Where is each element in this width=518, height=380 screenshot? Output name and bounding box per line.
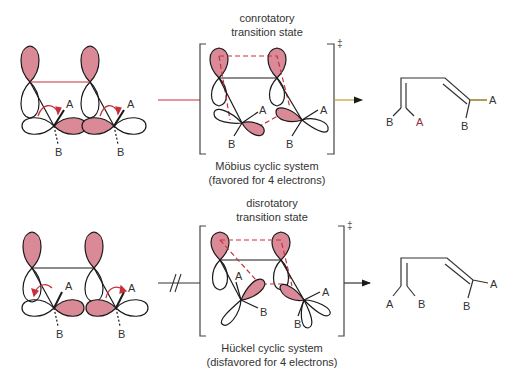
top-product-diene xyxy=(393,78,487,118)
top-reactant-label-a2: A xyxy=(127,98,134,110)
top-ts-orbitals xyxy=(210,48,328,136)
bottom-product-label-a2: A xyxy=(490,278,497,290)
bottom-ts-title-line1: disrotatory xyxy=(237,197,307,210)
top-system-line2: (favored for 4 electrons) xyxy=(195,174,339,187)
bottom-reactant-label-a1: A xyxy=(65,280,72,292)
diagram-canvas xyxy=(0,0,518,380)
bottom-reactant-label-b1: B xyxy=(56,328,63,340)
bottom-product-label-b2: B xyxy=(463,300,470,312)
top-ts-label-a2: A xyxy=(320,104,327,116)
top-product-label-b2: B xyxy=(461,120,468,132)
bottom-ts-title-line2: transition state xyxy=(227,211,317,224)
top-ts-title-line2: transition state xyxy=(222,26,312,39)
top-ts-title-line1: conrotatory xyxy=(232,12,302,25)
bottom-ts-label-a2: A xyxy=(322,286,329,298)
bottom-ts-label-b2: B xyxy=(294,318,301,330)
top-ts-label-a1: A xyxy=(259,104,266,116)
bottom-ts-label-a1: A xyxy=(235,270,242,282)
bottom-product-diene xyxy=(393,258,488,298)
bottom-product-label-a1: A xyxy=(386,298,393,310)
bottom-reactant-label-a2: A xyxy=(128,282,135,294)
bottom-system-line2: (disfavored for 4 electrons) xyxy=(195,356,349,369)
bottom-ts-orbitals xyxy=(211,232,330,328)
top-reactant-orbitals xyxy=(21,46,146,144)
top-reactant-label-b2: B xyxy=(117,146,124,158)
bottom-ts-label-b1: B xyxy=(260,306,267,318)
top-product-label-a1: A xyxy=(416,116,423,128)
top-reactant-label-b1: B xyxy=(55,146,62,158)
top-reactant-label-a1: A xyxy=(66,98,73,110)
bottom-reactant-label-b2: B xyxy=(118,328,125,340)
bottom-system-line1: Hückel cyclic system xyxy=(200,342,344,355)
top-ts-double-dagger: ‡ xyxy=(337,38,343,49)
top-ts-label-b2: B xyxy=(286,138,293,150)
top-system-line1: Möbius cyclic system xyxy=(200,160,334,173)
top-ts-label-b1: B xyxy=(228,138,235,150)
bottom-reactant-orbitals xyxy=(22,232,148,326)
bottom-ts-double-dagger: ‡ xyxy=(347,220,353,231)
top-product-label-b1: B xyxy=(386,116,393,128)
bottom-product-label-b1: B xyxy=(418,298,425,310)
top-product-label-a2: A xyxy=(489,94,496,106)
bottom-arrow-to-ts xyxy=(158,274,200,292)
